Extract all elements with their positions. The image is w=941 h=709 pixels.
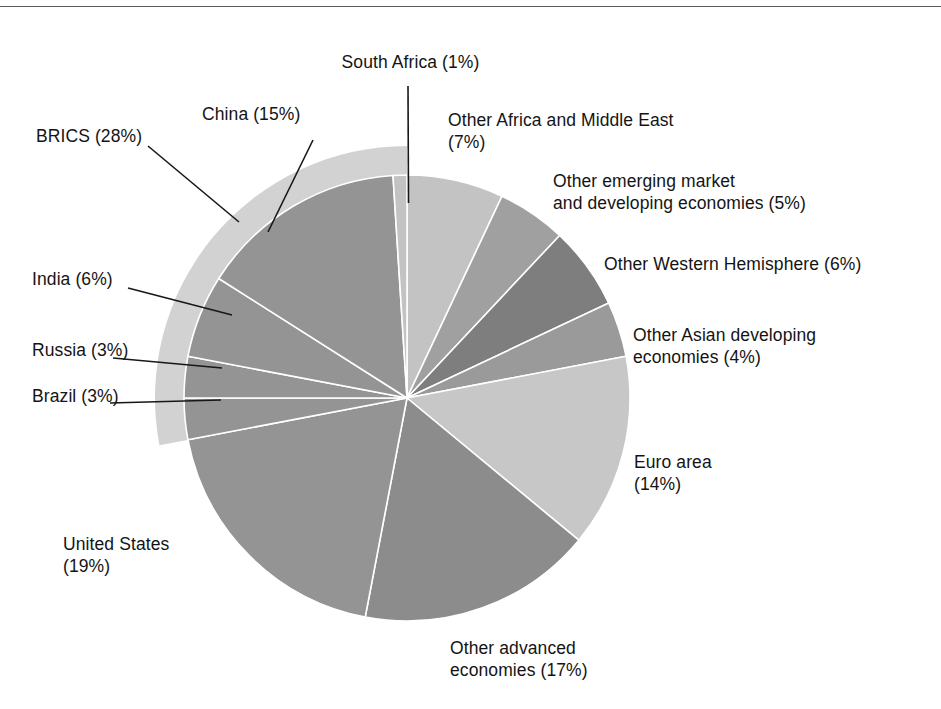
label-india: India (6%) xyxy=(32,269,113,290)
pie-chart-figure: Other Africa and Middle East (7%)Other e… xyxy=(0,0,941,709)
label-other-africa-line2: (7%) xyxy=(448,132,485,153)
pie-chart-svg: Other Africa and Middle East (7%)Other e… xyxy=(0,0,941,709)
leader-line-brics xyxy=(148,146,239,222)
label-brics: BRICS (28%) xyxy=(36,126,142,147)
label-united-states-line1: United States xyxy=(63,534,169,555)
label-other-emerging-line1: Other emerging market xyxy=(553,171,735,192)
label-euro-area-line2: (14%) xyxy=(634,474,681,495)
leader-line-south-africa xyxy=(408,86,409,203)
label-brazil: Brazil (3%) xyxy=(32,386,119,407)
label-other-western-hemisphere: Other Western Hemisphere (6%) xyxy=(604,254,861,275)
label-other-advanced-line2: economies (17%) xyxy=(450,660,588,681)
label-euro-area-line1: Euro area xyxy=(634,452,712,473)
label-other-emerging-line2: and developing economies (5%) xyxy=(553,193,806,214)
label-south-africa: South Africa (1%) xyxy=(288,52,533,73)
pie-slices: Other Africa and Middle East (7%)Other e… xyxy=(184,175,630,621)
label-other-asian-line2: economies (4%) xyxy=(633,347,761,368)
label-russia: Russia (3%) xyxy=(32,340,128,361)
label-united-states-line2: (19%) xyxy=(63,556,110,577)
label-other-asian-line1: Other Asian developing xyxy=(633,325,816,346)
label-other-advanced-line1: Other advanced xyxy=(450,638,576,659)
label-other-africa-line1: Other Africa and Middle East xyxy=(448,110,674,131)
label-china: China (15%) xyxy=(202,104,300,125)
